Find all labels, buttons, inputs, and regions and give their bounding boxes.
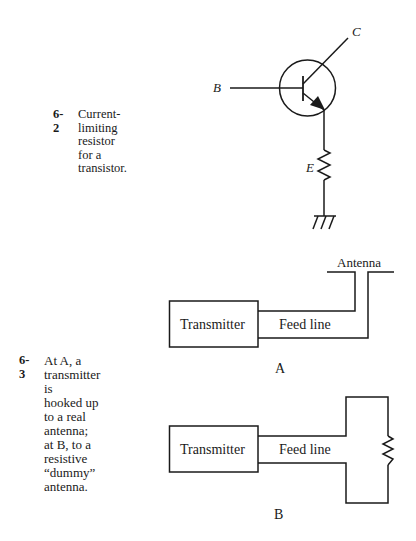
base-label: B [213, 80, 221, 95]
feed-line-label-a: Feed line [279, 317, 331, 332]
feed-line-top [258, 272, 355, 311]
collector-label: C [352, 24, 361, 39]
panel-a-circuit [170, 272, 395, 347]
resistor-icon [383, 436, 393, 465]
feed-line-bottom [258, 463, 388, 503]
emitter-label: E [305, 160, 314, 175]
transmitter-label-b: Transmitter [180, 442, 245, 457]
transmitter-label-a: Transmitter [180, 317, 245, 332]
panel-b-label: B [274, 507, 283, 522]
transistor-circuit [230, 38, 348, 229]
ground-icon [313, 216, 336, 229]
feed-line-label-b: Feed line [279, 442, 331, 457]
resistor-icon [318, 150, 330, 180]
feed-line-top [258, 397, 388, 436]
diagram-canvas: B C E Transmitter Feed line Antenna A Tr… [0, 0, 416, 541]
antenna-label: Antenna [337, 255, 381, 270]
transistor-symbol-icon [230, 38, 348, 150]
panel-a-label: A [275, 361, 286, 376]
